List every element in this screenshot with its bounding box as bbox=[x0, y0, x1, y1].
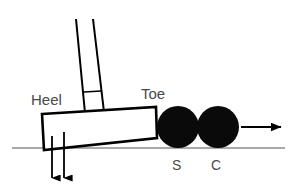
marker-c-label: C bbox=[211, 157, 221, 173]
marker-s-label: S bbox=[172, 157, 181, 173]
foot-body bbox=[42, 107, 157, 150]
shank-right-line bbox=[93, 19, 104, 112]
circle-s bbox=[157, 106, 199, 148]
ankle-joint-bar bbox=[84, 91, 101, 92]
heel-label: Heel bbox=[31, 91, 62, 108]
diagram-canvas: Heel Toe S C bbox=[0, 0, 297, 193]
shank-left-line bbox=[76, 19, 85, 113]
foot-diagram-figure: Heel Toe S C bbox=[0, 0, 297, 193]
toe-label: Toe bbox=[141, 85, 165, 102]
circle-c bbox=[197, 106, 239, 148]
